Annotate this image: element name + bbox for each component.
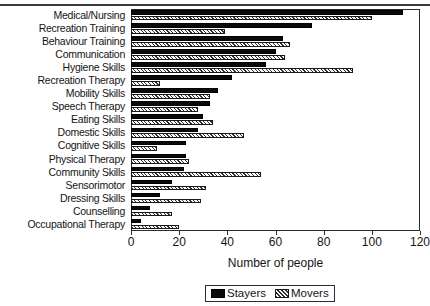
bar-movers: [131, 146, 157, 151]
category-axis-labels: Medical/NursingRecreation TrainingBehavi…: [0, 9, 128, 231]
bar-stayers: [131, 10, 403, 15]
bar-chart-figure: Medical/NursingRecreation TrainingBehavi…: [0, 0, 430, 306]
category-label: Medical/Nursing: [0, 9, 128, 22]
category-label: Eating Skills: [0, 113, 128, 126]
bar-stayers: [131, 36, 283, 41]
bar-stayers: [131, 88, 218, 93]
bar-row: [131, 48, 420, 61]
bar-movers: [131, 81, 160, 86]
category-label: Hygiene Skills: [0, 61, 128, 74]
bar-row: [131, 205, 420, 218]
legend-swatch-movers: [275, 289, 289, 298]
legend-swatch-stayers: [211, 289, 225, 298]
bar-stayers: [131, 62, 266, 67]
x-axis-tick-labels: 020406080100120: [131, 235, 420, 251]
bar-stayers: [131, 180, 172, 185]
bar-movers: [131, 199, 201, 204]
bar-row: [131, 100, 420, 113]
bar-row: [131, 179, 420, 192]
category-label: Physical Therapy: [0, 153, 128, 166]
legend-label-stayers: Stayers: [227, 287, 266, 299]
bar-stayers: [131, 141, 186, 146]
bar-stayers: [131, 114, 203, 119]
bar-row: [131, 113, 420, 126]
bar-movers: [131, 120, 213, 125]
bar-row: [131, 139, 420, 152]
bar-movers: [131, 42, 290, 47]
category-label: Cognitive Skills: [0, 139, 128, 152]
category-label: Speech Therapy: [0, 100, 128, 113]
x-axis-tick-label: 80: [317, 235, 330, 249]
x-axis-tick-label: 100: [362, 235, 382, 249]
bar-movers: [131, 133, 244, 138]
bar-movers: [131, 29, 225, 34]
bar-stayers: [131, 128, 198, 133]
legend-item-movers: Movers: [275, 287, 329, 299]
bar-stayers: [131, 75, 232, 80]
chart-legend: Stayers Movers: [205, 285, 335, 302]
x-axis-tick-label: 120: [410, 235, 430, 249]
category-label: Behaviour Training: [0, 35, 128, 48]
bar-row: [131, 87, 420, 100]
legend-label-movers: Movers: [291, 287, 329, 299]
category-label: Occupational Therapy: [0, 218, 128, 231]
category-label: Community Skills: [0, 166, 128, 179]
category-label: Recreation Therapy: [0, 74, 128, 87]
bar-movers: [131, 172, 261, 177]
bar-row: [131, 35, 420, 48]
category-label: Recreation Training: [0, 22, 128, 35]
category-label: Domestic Skills: [0, 126, 128, 139]
top-divider-rule: [0, 4, 430, 6]
bar-row: [131, 9, 420, 22]
bar-movers: [131, 225, 179, 230]
bar-movers: [131, 16, 372, 21]
category-label: Dressing Skills: [0, 192, 128, 205]
bar-stayers: [131, 193, 160, 198]
bar-row: [131, 218, 420, 231]
legend-item-stayers: Stayers: [211, 287, 266, 299]
bar-movers: [131, 94, 210, 99]
bar-movers: [131, 159, 189, 164]
bar-row: [131, 22, 420, 35]
bar-row: [131, 74, 420, 87]
bar-row: [131, 126, 420, 139]
x-axis-tick-label: 40: [221, 235, 234, 249]
bar-stayers: [131, 154, 186, 159]
bar-movers: [131, 212, 172, 217]
x-axis-title: Number of people: [131, 256, 420, 270]
category-label: Sensorimotor: [0, 179, 128, 192]
category-label: Counselling: [0, 205, 128, 218]
bar-stayers: [131, 101, 210, 106]
bar-stayers: [131, 206, 150, 211]
bar-stayers: [131, 23, 312, 28]
bar-row: [131, 61, 420, 74]
bar-row: [131, 192, 420, 205]
bar-row: [131, 166, 420, 179]
x-axis-tick-label: 0: [128, 235, 135, 249]
bar-movers: [131, 68, 353, 73]
bar-stayers: [131, 167, 184, 172]
bar-movers: [131, 107, 198, 112]
bar-movers: [131, 186, 206, 191]
x-axis-tick-label: 20: [172, 235, 185, 249]
category-label: Mobility Skills: [0, 87, 128, 100]
bar-row: [131, 153, 420, 166]
category-label: Communication: [0, 48, 128, 61]
bar-movers: [131, 55, 285, 60]
bar-stayers: [131, 49, 276, 54]
bar-stayers: [131, 219, 141, 224]
x-axis-tick-label: 60: [269, 235, 282, 249]
bar-rows: [131, 9, 420, 231]
